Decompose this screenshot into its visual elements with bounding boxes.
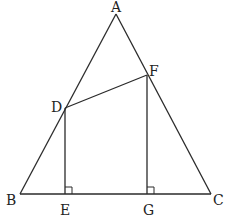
right-angle-mark-e — [65, 187, 72, 194]
label-e: E — [60, 202, 70, 218]
geometry-figure: A B C D F E G — [0, 0, 226, 219]
label-d: D — [51, 99, 62, 115]
label-a: A — [110, 0, 122, 15]
label-c: C — [213, 192, 224, 208]
right-angle-mark-g — [147, 187, 154, 194]
side-ac — [116, 14, 211, 194]
side-ab — [20, 14, 116, 194]
segment-df — [65, 75, 147, 108]
label-f: F — [149, 63, 159, 79]
label-g: G — [143, 202, 154, 218]
label-b: B — [6, 192, 16, 208]
